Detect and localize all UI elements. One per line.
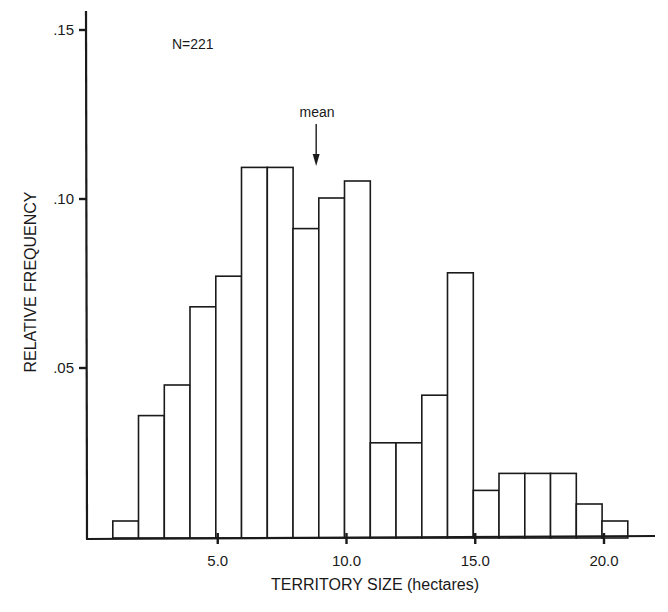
histogram-bar bbox=[319, 198, 345, 538]
histogram-bar bbox=[499, 473, 525, 538]
histogram-bar bbox=[293, 229, 319, 538]
histogram-bar bbox=[448, 273, 474, 538]
histogram-bar bbox=[422, 395, 448, 538]
histogram-bar bbox=[216, 276, 242, 538]
histogram-bar bbox=[190, 307, 216, 538]
histogram-bar bbox=[576, 504, 602, 538]
y-axis-line bbox=[86, 11, 87, 539]
histogram-bar bbox=[473, 490, 499, 538]
histogram-bar bbox=[370, 443, 396, 538]
x-tick-label: 10.0 bbox=[332, 552, 361, 569]
x-axis-title: TERRITORY SIZE (hectares) bbox=[271, 576, 479, 593]
mean-arrow-icon bbox=[313, 124, 320, 166]
histogram-bars bbox=[113, 167, 628, 538]
y-axis-title: RELATIVE FREQUENCY bbox=[22, 191, 39, 372]
histogram-bar bbox=[164, 385, 190, 538]
y-axis-ticks: .05.10.15 bbox=[53, 21, 87, 376]
x-tick-label: 15.0 bbox=[461, 552, 490, 569]
histogram-bar bbox=[345, 181, 371, 538]
histogram-bar bbox=[267, 167, 293, 538]
x-tick-label: 20.0 bbox=[589, 552, 618, 569]
sample-size-annotation: N=221 bbox=[172, 36, 214, 52]
histogram-bar bbox=[113, 521, 139, 538]
y-tick-label: .05 bbox=[53, 359, 74, 376]
histogram-chart: .05.10.15 5.010.015.020.0 N=221 mean TER… bbox=[0, 0, 668, 612]
mean-label: mean bbox=[299, 104, 334, 120]
histogram-bar bbox=[396, 443, 422, 538]
histogram-bar bbox=[139, 416, 165, 538]
y-tick-label: .10 bbox=[53, 190, 74, 207]
histogram-bar bbox=[525, 473, 551, 538]
y-tick-label: .15 bbox=[53, 21, 74, 38]
histogram-bar bbox=[551, 473, 577, 538]
x-tick-label: 5.0 bbox=[207, 552, 228, 569]
histogram-bar bbox=[242, 167, 268, 538]
